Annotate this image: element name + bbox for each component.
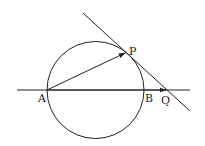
point-label-B: B bbox=[145, 92, 153, 105]
point-label-P: P bbox=[129, 45, 137, 58]
point-label-A: A bbox=[37, 92, 47, 105]
geometry-diagram: A B P Q bbox=[0, 0, 205, 146]
point-label-Q: Q bbox=[161, 94, 170, 107]
tangent-line-PQ bbox=[83, 13, 190, 111]
